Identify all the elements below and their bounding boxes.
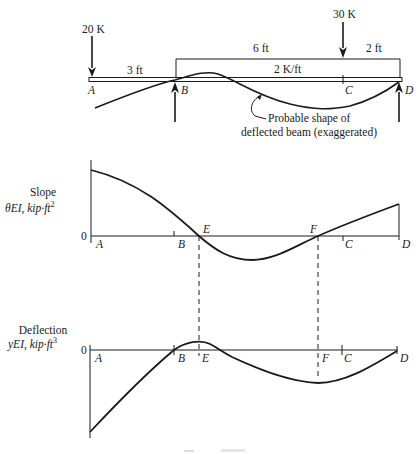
caption-remnant xyxy=(221,449,245,452)
load-label-30k: 30 K xyxy=(333,8,356,20)
slope-label-c: C xyxy=(345,238,353,250)
annotation-line-1: Probable shape of xyxy=(268,112,351,125)
slope-label-d: D xyxy=(401,238,411,250)
point-load-30k: 30 K xyxy=(333,8,356,58)
annotation-leader xyxy=(251,96,266,119)
slope-zero-label: 0 xyxy=(81,230,87,242)
dim-label-cd: 2 ft xyxy=(366,42,382,54)
point-label-a: A xyxy=(87,84,96,96)
deflection-label-c: C xyxy=(344,352,352,364)
deflection-label-e: E xyxy=(201,352,209,364)
point-label-b: B xyxy=(181,84,188,96)
point-label-d: D xyxy=(404,84,414,96)
deflection-ylabel-1: Deflection xyxy=(19,324,68,336)
slope-label-a: A xyxy=(95,238,104,250)
arrowhead-icon xyxy=(171,82,179,93)
dim-label-bc: 6 ft xyxy=(253,42,269,54)
slope-ylabel-1: Slope xyxy=(30,186,56,199)
dim-label-ab: 3 ft xyxy=(127,64,143,76)
beam xyxy=(89,78,402,82)
distributed-load-label: 2 K/ft xyxy=(274,63,302,75)
deflection-label-d: D xyxy=(399,352,409,364)
slope-ylabel-exponent: 2 xyxy=(51,200,55,209)
slope-label-b: B xyxy=(178,238,185,250)
point-label-c: C xyxy=(345,84,353,96)
annotation-line-2: deflected beam (exaggerated) xyxy=(241,126,377,139)
deflection-label-a: A xyxy=(94,352,103,364)
reaction-d xyxy=(395,82,403,122)
slope-ylabel-2: θEI, kip·ft2 xyxy=(5,200,55,215)
arrowhead-icon xyxy=(339,47,347,58)
leader-arrow-icon xyxy=(257,94,262,100)
slope-label-e: E xyxy=(202,223,210,235)
deflection-ylabel-units: yEI, kip·ft xyxy=(7,338,54,351)
load-label-20k: 20 K xyxy=(82,23,105,35)
beam-diagram: 20 K 30 K 3 ft 6 ft 2 ft 2 K/ft A B C D xyxy=(82,8,414,139)
deflection-plot: Deflection yEI, kip·ft3 0 A B E F C D xyxy=(7,324,409,438)
caption-remnant xyxy=(184,450,194,452)
deflection-ylabel-2: yEI, kip·ft3 xyxy=(7,336,57,351)
deflection-label-f: F xyxy=(321,352,330,364)
point-load-20k: 20 K xyxy=(82,23,105,77)
deflection-zero-label: 0 xyxy=(81,344,87,356)
slope-plot: Slope θEI, kip·ft2 0 A B E F C D xyxy=(5,160,411,260)
slope-ylabel-units: θEI, kip·ft xyxy=(5,202,51,215)
reaction-b xyxy=(171,82,179,122)
slope-label-f: F xyxy=(309,223,318,235)
deflection-label-b: B xyxy=(178,352,185,364)
beam-analysis-figure: 20 K 30 K 3 ft 6 ft 2 ft 2 K/ft A B C D xyxy=(0,0,419,454)
arrowhead-icon xyxy=(88,67,96,77)
deflection-ylabel-exponent: 3 xyxy=(53,336,57,345)
slope-curve xyxy=(91,170,399,260)
